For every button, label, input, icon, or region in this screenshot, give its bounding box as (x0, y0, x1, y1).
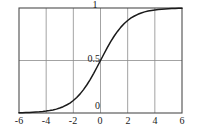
plot-area (19, 8, 182, 113)
sigmoid-curve (19, 8, 182, 113)
x-tick-label-neg6: -6 (9, 116, 29, 126)
y-tick-label-0: 0 (78, 101, 100, 111)
x-tick-label-pos2: 2 (118, 116, 138, 126)
sigmoid-chart-figure: 1 0.5 0 -6 -4 -2 0 2 4 6 (0, 0, 199, 135)
x-tick-label-zero: 0 (90, 116, 110, 126)
x-tick-label-neg4: -4 (36, 116, 56, 126)
y-tick-label-0.5: 0.5 (78, 54, 100, 64)
x-tick-label-pos6: 6 (172, 116, 192, 126)
y-tick-label-1: 1 (85, 0, 105, 10)
x-tick-label-neg2: -2 (63, 116, 83, 126)
x-tick-label-pos4: 4 (145, 116, 165, 126)
